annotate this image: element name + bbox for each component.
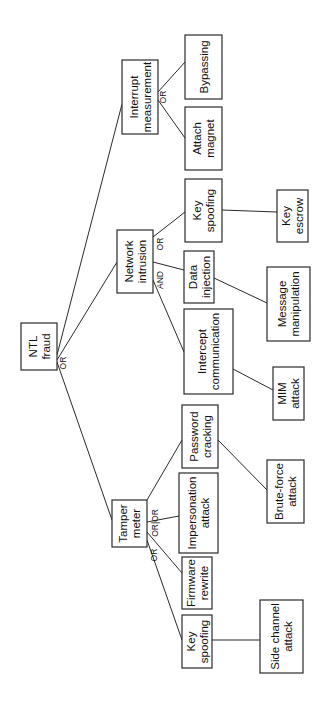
- node-label: magnet: [204, 119, 216, 158]
- node-label: Key: [280, 206, 292, 226]
- node-label: fraud: [40, 333, 52, 359]
- edge-connector: [158, 62, 185, 92]
- node-label: measurement: [141, 61, 153, 132]
- node-ntl: NTLfraud: [21, 323, 57, 370]
- node-label: cracking: [201, 415, 213, 458]
- gate-label: OR: [149, 549, 159, 562]
- node-label: NTL: [27, 335, 39, 357]
- node-label: Bypassing: [198, 40, 210, 93]
- node-label: attack: [289, 378, 301, 409]
- node-label: spoofing: [204, 189, 216, 232]
- node-interrupt: Interruptmeasurement: [122, 60, 158, 134]
- node-label: Tamper: [117, 504, 129, 543]
- gate-label: OR: [155, 238, 165, 251]
- node-label: attack: [286, 476, 298, 507]
- node-label: Key: [185, 631, 197, 651]
- node-tamper: Tampermeter: [112, 500, 147, 547]
- gates-layer: ORORORANDOR|OROR: [58, 91, 168, 562]
- node-impersonation: Impersonationattack: [179, 473, 218, 553]
- node-label: Intercept: [196, 328, 208, 374]
- node-bruteforce: Brute-forceattack: [267, 460, 304, 523]
- nodes-layer: NTLfraudInterruptmeasurementBypassingAtt…: [21, 35, 310, 673]
- node-label: escrow: [293, 197, 305, 234]
- node-datainj: Datainjection: [184, 251, 214, 303]
- node-label: injection: [200, 256, 212, 298]
- edge-connector: [233, 369, 273, 390]
- edge-connector: [147, 440, 182, 500]
- edge-connector: [57, 262, 117, 360]
- node-label: Attach: [191, 122, 203, 155]
- node-label: spoofing: [198, 620, 210, 663]
- node-attach: Attachmagnet: [185, 107, 222, 170]
- gate-label: OR: [58, 357, 68, 370]
- node-keyspoof_net: Keyspoofing: [185, 179, 222, 242]
- node-label: Interrupt: [128, 75, 140, 119]
- node-label: meter: [130, 509, 142, 539]
- node-label: attack: [199, 497, 211, 528]
- node-keyescrow: Keyescrow: [277, 190, 308, 242]
- edge-connector: [57, 362, 112, 520]
- node-password: Passwordcracking: [182, 405, 218, 468]
- edge-connector: [222, 210, 277, 212]
- edge-connector: [153, 212, 185, 237]
- gate-label: OR|OR: [150, 509, 160, 537]
- node-mim: MIMattack: [273, 367, 304, 420]
- node-msgmanip: Messagemanipulation: [267, 267, 310, 341]
- node-firmware: Firmwarerewrite: [182, 557, 212, 609]
- node-label: Password: [188, 411, 200, 462]
- node-sidechannel: Side channelattack: [260, 600, 303, 673]
- edges-layer: [57, 62, 277, 640]
- node-label: intrusion: [136, 240, 148, 283]
- edge-connector: [218, 440, 267, 490]
- node-bypassing: Bypassing: [185, 35, 222, 99]
- node-label: Message: [276, 281, 288, 328]
- attack-tree-diagram: NTLfraudInterruptmeasurementBypassingAtt…: [0, 0, 324, 715]
- node-intercept: Interceptcommunication: [184, 309, 233, 394]
- node-label: Data: [187, 264, 199, 289]
- node-label: rewrite: [198, 566, 210, 601]
- gate-label: AND: [155, 271, 165, 289]
- edge-connector: [153, 280, 184, 352]
- diagram-svg: NTLfraudInterruptmeasurementBypassingAtt…: [0, 0, 324, 715]
- node-label: Brute-force: [273, 463, 285, 520]
- node-label: Network: [123, 240, 135, 282]
- node-label: Key: [191, 200, 203, 220]
- node-label: attack: [282, 621, 294, 652]
- node-label: MIM: [276, 382, 288, 404]
- edge-connector: [158, 100, 185, 138]
- edge-connector: [57, 104, 122, 355]
- node-label: Side channel: [269, 603, 281, 670]
- node-label: Firmware: [185, 559, 197, 607]
- gate-label: OR: [158, 91, 168, 104]
- edge-connector: [153, 262, 184, 270]
- node-label: communication: [209, 313, 221, 390]
- node-network: Networkintrusion: [117, 230, 153, 293]
- node-label: Impersonation: [186, 477, 198, 550]
- node-keyspoof_tamper: Keyspoofing: [182, 615, 212, 668]
- node-label: manipulation: [289, 271, 301, 336]
- edge-connector: [214, 278, 267, 303]
